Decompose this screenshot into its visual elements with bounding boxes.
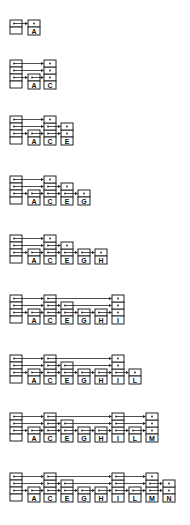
skip-list-step-2: AC [10,60,56,89]
node-key-label: C [47,377,52,384]
node-A: A [28,130,40,145]
node-H: H [95,427,107,442]
node-key-label: I [117,377,119,384]
skip-list-diagram: AACACEACEGACEGHACEGHIACEGHILACEGHILMACEG… [0,0,190,525]
node-key-label: A [31,28,36,35]
node-key-label: E [65,317,70,324]
node-L: L [129,487,141,502]
node-key-label: C [47,435,52,442]
node-key-label: A [31,317,36,324]
nil-pointer-dot [66,133,68,135]
node-key-label: A [31,198,36,205]
nil-pointer-dot [66,245,68,247]
node-G: G [78,427,90,442]
nil-pointer-dot [117,305,119,307]
header-node [10,176,22,204]
nil-pointer-dot [151,423,153,425]
nil-pointer-dot [117,358,119,360]
node-A: A [28,369,40,384]
nil-pointer-dot [49,119,51,121]
node-key-label: A [31,257,36,264]
node-key-label: N [166,495,171,502]
nil-pointer-dot [134,372,136,374]
node-H: H [95,369,107,384]
node-G: G [78,249,90,264]
header-node [10,473,22,501]
node-key-label: H [98,317,103,324]
nil-pointer-dot [83,193,85,195]
node-key-label: E [65,198,70,205]
node-key-label: G [81,495,87,502]
nil-pointer-dot [151,430,153,432]
node-I: I [112,413,124,442]
nil-pointer-dot [49,179,51,181]
header-node [10,235,22,263]
node-key-label: I [117,495,119,502]
node-L: L [129,369,141,384]
node-key-label: A [31,495,36,502]
nil-pointer-dot [33,23,35,25]
nil-pointer-dot [117,298,119,300]
node-key-label: I [117,435,119,442]
node-G: G [78,190,90,205]
node-key-label: C [47,317,52,324]
nil-pointer-dot [49,70,51,72]
node-A: A [28,427,40,442]
node-key-label: A [31,377,36,384]
nil-pointer-dot [117,365,119,367]
node-A: A [28,249,40,264]
skip-list-step-5: ACEGH [10,235,107,264]
node-A: A [28,487,40,502]
nil-pointer-dot [168,483,170,485]
skip-list-step-3: ACE [10,116,73,145]
node-key-label: I [117,317,119,324]
node-I: I [112,473,124,502]
node-C: C [44,295,56,324]
header-node [10,295,22,323]
node-key-label: G [81,435,87,442]
node-H: H [95,487,107,502]
skip-list-step-7: ACEGHIL [10,355,141,384]
node-C: C [44,413,56,442]
node-A: A [28,309,40,324]
node-A: A [28,74,40,89]
node-key-label: C [47,198,52,205]
node-key-label: C [47,138,52,145]
node-H: H [95,309,107,324]
node-G: G [78,309,90,324]
node-key-label: G [81,198,87,205]
node-A: A [28,20,40,35]
node-key-label: A [31,138,36,145]
node-key-label: H [98,495,103,502]
nil-pointer-dot [66,186,68,188]
node-key-label: G [81,257,87,264]
nil-pointer-dot [168,490,170,492]
node-key-label: M [149,495,155,502]
skip-list-step-4: ACEG [10,176,90,205]
skip-list-step-1: A [10,20,40,35]
node-A: A [28,190,40,205]
skip-list-step-9: ACEGHILMN [10,473,175,502]
node-C: C [44,473,56,502]
node-key-label: G [81,317,87,324]
node-C: C [44,355,56,384]
node-key-label: E [65,138,70,145]
node-key-label: C [47,82,52,89]
skip-list-step-8: ACEGHILM [10,413,158,442]
node-key-label: C [47,257,52,264]
nil-pointer-dot [66,126,68,128]
skip-list-step-6: ACEGHI [10,295,124,324]
nil-pointer-dot [151,476,153,478]
node-key-label: E [65,435,70,442]
nil-pointer-dot [49,77,51,79]
header-node [10,413,22,441]
node-L: L [129,427,141,442]
node-key-label: C [47,495,52,502]
header-node [10,116,22,144]
node-key-label: G [81,377,87,384]
header-node [10,20,22,34]
nil-pointer-dot [117,312,119,314]
node-key-label: E [65,377,70,384]
node-key-label: L [133,495,138,502]
node-key-label: A [31,82,36,89]
